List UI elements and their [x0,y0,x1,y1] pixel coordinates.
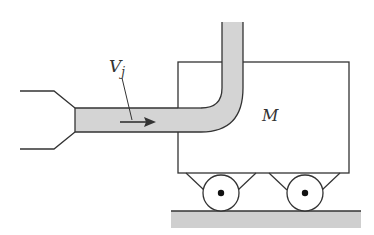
axle-icon [218,190,224,196]
wheel-left [203,175,239,211]
wheel-right [287,175,323,211]
jet-velocity-label: Vj [109,56,125,79]
cart-mass-label: M [262,106,278,125]
ground [171,211,361,228]
nozzle [20,91,75,149]
jet-velocity-symbol: V [109,56,121,76]
jet-cart-diagram [0,0,374,235]
axle-icon [302,190,308,196]
jet-velocity-subscript: j [121,65,125,79]
